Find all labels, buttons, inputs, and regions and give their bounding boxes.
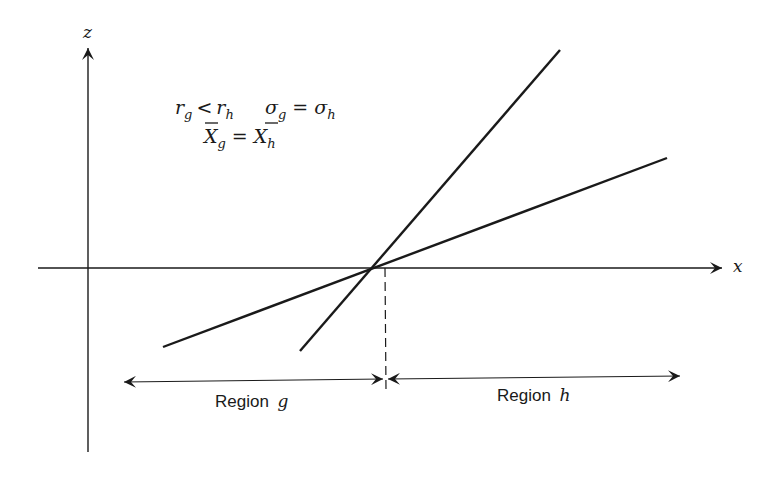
- steep-regression-line: [300, 50, 560, 351]
- mean-condition: Xg=Xh: [202, 125, 276, 151]
- z-axis: z: [82, 22, 93, 452]
- x-axis-label: x: [733, 256, 743, 276]
- region-h-label: Region h: [497, 385, 571, 405]
- region-g-label: Region g: [215, 391, 289, 411]
- x-axis: x: [38, 256, 743, 276]
- z-axis-label: z: [82, 22, 93, 42]
- region-h-span: [388, 376, 680, 379]
- region-g-span: [124, 379, 383, 382]
- conditions-annotation: rg<rh σg=σh Xg=Xh: [175, 96, 336, 151]
- sigma-condition: σg=σh: [265, 96, 336, 122]
- shallow-regression-line: [163, 158, 667, 347]
- correlation-condition: rg<rh: [175, 96, 234, 122]
- intersection-dropline: [385, 268, 386, 390]
- regression-regions-diagram: z x Region g Region h rg<rh σg=σh Xg=X: [0, 0, 774, 480]
